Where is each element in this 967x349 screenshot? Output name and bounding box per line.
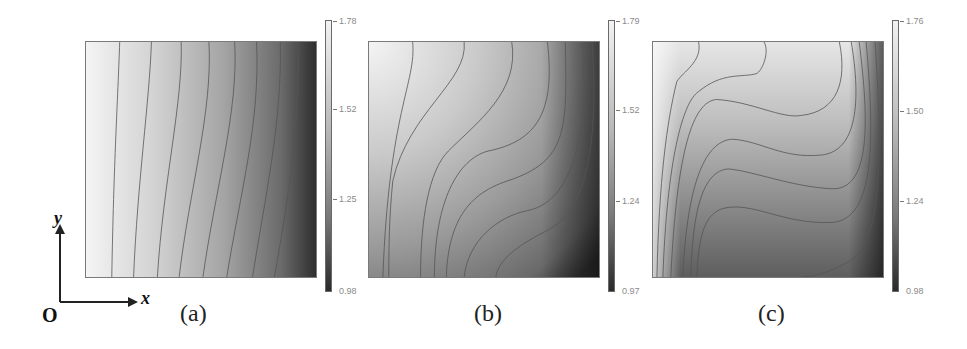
contour-plot-b	[368, 41, 600, 278]
contour-plot-c	[652, 41, 884, 278]
colorbar-a-tick-high: 1.52	[339, 104, 357, 114]
colorbar-b-min-label: 0.97	[622, 286, 640, 296]
colorbar-b-tick-high: 1.52	[622, 105, 640, 115]
colorbar-c: 1.76 1.50 1.24 0.98	[892, 20, 899, 292]
colorbar-c-max-label: 1.76	[906, 16, 924, 26]
y-axis-label: y	[54, 208, 62, 229]
colorbar-c-tick-high: 1.50	[906, 106, 924, 116]
axes-indicator: y x O	[40, 220, 160, 330]
origin-label: O	[42, 304, 58, 327]
colorbar-b-max-label: 1.79	[622, 16, 640, 26]
contour-map-c	[653, 42, 883, 277]
colorbar-b-tick-low: 1.24	[622, 196, 640, 206]
caption-b: (b)	[474, 300, 502, 327]
axes-arrows-icon	[40, 220, 160, 330]
x-axis-label: x	[141, 288, 150, 309]
colorbar-a: 1.78 1.52 1.25 0.98	[325, 20, 332, 292]
caption-c: (c)	[758, 300, 785, 327]
colorbar-c-tick-low: 1.24	[906, 196, 924, 206]
colorbar-a-min-label: 0.98	[339, 286, 357, 296]
colorbar-a-tick-low: 1.25	[339, 194, 357, 204]
caption-a: (a)	[180, 300, 207, 327]
colorbar-c-min-label: 0.98	[906, 286, 924, 296]
colorbar-a-max-label: 1.78	[339, 16, 357, 26]
contour-map-b	[369, 42, 599, 277]
colorbar-b: 1.79 1.52 1.24 0.97	[608, 20, 615, 292]
